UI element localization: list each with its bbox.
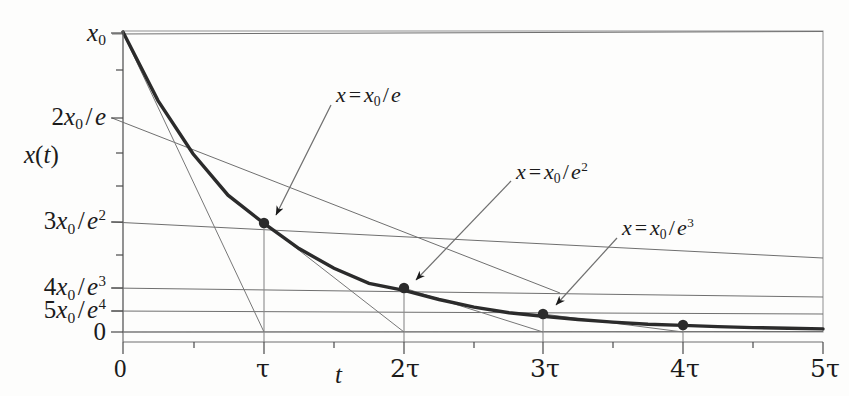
x-tick-label-4tau: 4τ bbox=[670, 356, 700, 381]
leader-annot-1 bbox=[276, 105, 331, 215]
plot-frame bbox=[123, 31, 823, 332]
leader-annot-2 bbox=[416, 181, 511, 280]
x-axis-ticks bbox=[123, 342, 823, 354]
marker-2tau bbox=[399, 283, 409, 293]
gridline-3x0e2 bbox=[112, 222, 823, 258]
annotation-x0-over-e: x=x0/e bbox=[336, 84, 401, 108]
y-tick-label-zero: 0 bbox=[66, 319, 106, 344]
decay-curve bbox=[123, 32, 823, 329]
gridline-2x0e bbox=[112, 118, 560, 293]
marker-4tau bbox=[678, 320, 688, 330]
x-tick-label-3tau: 3τ bbox=[530, 356, 560, 381]
annotation-x0-over-e2: x=x0/e2 bbox=[516, 160, 588, 186]
x-tick-label-tau: τ bbox=[256, 356, 270, 381]
gridline-0 bbox=[123, 332, 823, 333]
gridline-x0 bbox=[112, 32, 823, 35]
chart-svg bbox=[0, 0, 849, 396]
marker-tau bbox=[259, 218, 269, 228]
marker-3tau bbox=[538, 309, 548, 319]
leader-annot-3 bbox=[556, 238, 617, 305]
y-axis-label: x(t) bbox=[24, 142, 106, 167]
exponential-decay-figure: x0 2x0/e x(t) 3x0/e2 4x0/e3 5x0/e4 0 0 τ… bbox=[0, 0, 849, 396]
gridline-4x0e3 bbox=[112, 288, 823, 297]
annotation-leaders bbox=[276, 105, 617, 305]
x-tick-label-2tau: 2τ bbox=[390, 356, 420, 381]
y-tick-label-2x0-over-e: 2x0/e bbox=[6, 104, 106, 132]
y-tick-label-3x0-over-e2: 3x0/e2 bbox=[0, 208, 106, 236]
annotation-x0-over-e3: x=x0/e3 bbox=[622, 216, 694, 242]
x-tick-label-5tau: 5τ bbox=[810, 356, 840, 381]
gridline-5x0e4 bbox=[112, 311, 823, 314]
x-tick-label-0: 0 bbox=[114, 356, 127, 381]
y-axis-ticks bbox=[111, 33, 123, 332]
tangent-at-0 bbox=[123, 33, 264, 332]
x-axis-label: t bbox=[335, 362, 342, 387]
y-tick-label-x0: x0 bbox=[56, 20, 106, 48]
